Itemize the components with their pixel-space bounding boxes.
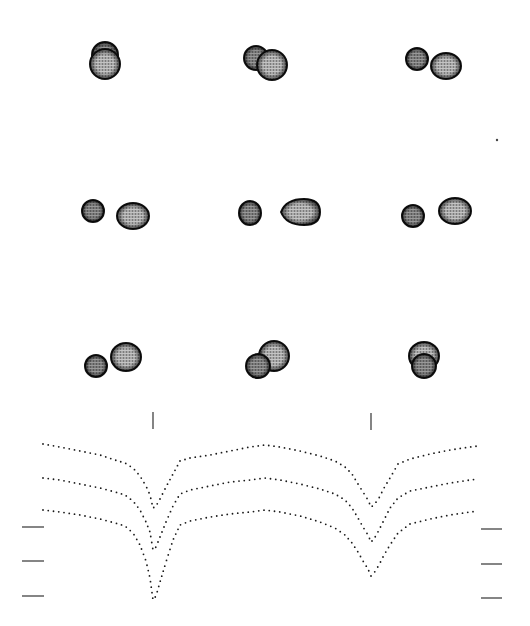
secondary-star-icon-limb: [239, 201, 261, 225]
phase-panel-1-1: [239, 199, 320, 225]
primary-star-icon-limb: [257, 50, 287, 80]
phase-panel-2-2: [409, 342, 439, 378]
primary-star-icon-limb: [431, 53, 461, 79]
phase-markers: [22, 412, 502, 598]
secondary-star-icon-limb: [402, 205, 424, 227]
primary-star-icon-limb: [439, 198, 471, 224]
stray-dot: [496, 139, 498, 141]
phase-panel-2-0: [85, 343, 141, 377]
secondary-star-icon-limb: [82, 200, 104, 222]
phase-panel-1-2: [402, 198, 471, 227]
primary-star-icon-limb: [117, 203, 149, 229]
phase-panel-2-1: [246, 341, 289, 378]
secondary-star-icon-limb: [85, 355, 107, 377]
phase-panel-0-1: [244, 46, 287, 80]
secondary-star-icon-limb: [406, 48, 428, 70]
phase-panel-1-0: [82, 200, 149, 229]
binary-star-figure: [0, 0, 530, 626]
primary-star-icon-limb: [90, 49, 120, 79]
phase-panels: [82, 42, 498, 378]
light-curve-1: [42, 443, 477, 508]
primary-star-icon-limb: [111, 343, 141, 371]
light-curve-2: [42, 477, 474, 549]
secondary-star-icon-limb: [412, 354, 436, 378]
light-curve-3: [42, 509, 474, 599]
phase-panel-0-2: [406, 48, 461, 79]
phase-panel-0-0: [90, 42, 120, 79]
secondary-star-icon-limb: [246, 354, 270, 378]
light-curves: [42, 443, 477, 599]
